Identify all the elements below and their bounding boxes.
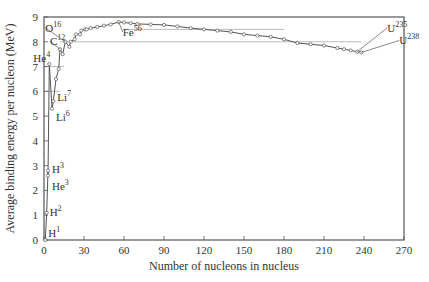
isotope-label: H1: [48, 225, 60, 239]
isotope-label: Li7: [57, 89, 71, 103]
data-point: [89, 27, 92, 30]
data-point: [349, 49, 352, 52]
data-point: [149, 23, 152, 26]
y-tick-label: 1: [33, 209, 39, 221]
data-point: [68, 45, 71, 48]
data-point: [80, 29, 83, 32]
data-point: [69, 40, 72, 43]
data-point: [57, 67, 60, 70]
reference-lines: [44, 29, 361, 91]
data-point: [46, 174, 49, 177]
data-point: [216, 29, 219, 32]
data-point: [189, 27, 192, 30]
data-point: [54, 77, 57, 80]
data-point: [85, 28, 88, 31]
x-tick-label: 60: [119, 244, 131, 256]
x-tick-label: 270: [396, 244, 413, 256]
data-point: [61, 53, 64, 56]
data-point: [322, 44, 325, 47]
y-tick-label: 0: [33, 234, 39, 246]
data-series: [44, 20, 363, 241]
isotope-label: He4: [33, 50, 50, 64]
data-point: [162, 23, 165, 26]
data-point: [242, 33, 245, 36]
y-tick-label: 8: [33, 36, 39, 48]
x-tick-label: 180: [276, 244, 293, 256]
y-tick-label: 4: [33, 135, 39, 147]
x-tick-label: 90: [159, 244, 171, 256]
binding-energy-chart: 03060901201501802102402700123456789 H1H2…: [0, 0, 429, 282]
data-point: [296, 41, 299, 44]
isotope-label: He3: [52, 178, 69, 192]
data-point: [269, 35, 272, 38]
data-point: [46, 169, 49, 172]
x-tick-label: 150: [236, 244, 253, 256]
isotope-label: Li6: [56, 109, 70, 123]
data-point: [74, 33, 77, 36]
y-tick-label: 2: [33, 184, 39, 196]
data-point: [342, 48, 345, 51]
data-point: [282, 38, 285, 41]
data-point: [78, 33, 81, 36]
data-point: [122, 21, 125, 24]
data-point: [96, 25, 99, 28]
x-tick-label: 0: [41, 244, 47, 256]
x-axis-label: Number of nucleons in nucleus: [149, 259, 299, 273]
data-point: [102, 24, 105, 27]
data-point: [309, 43, 312, 46]
isotope-label: H2: [50, 204, 62, 218]
data-point: [202, 28, 205, 31]
y-tick-label: 9: [33, 11, 39, 23]
data-point: [48, 62, 51, 65]
series-line: [45, 22, 361, 240]
y-tick-label: 3: [33, 160, 39, 172]
isotope-annotations: H1H2H3He3Li6Li7He4C12O16Fe56U235U238: [33, 20, 419, 239]
data-point: [73, 38, 76, 41]
isotope-label: U238: [399, 32, 419, 46]
data-point: [44, 238, 47, 241]
data-point: [176, 25, 179, 28]
x-tick-label: 240: [356, 244, 373, 256]
data-point: [336, 46, 339, 49]
y-tick-label: 6: [33, 85, 39, 97]
data-point: [52, 100, 55, 103]
axis-ticks: 03060901201501802102402700123456789: [33, 11, 413, 256]
isotope-label: H3: [52, 161, 64, 175]
x-tick-label: 30: [79, 244, 91, 256]
data-point: [45, 211, 48, 214]
isotope-label: Fe56: [123, 24, 142, 38]
chart-svg: 03060901201501802102402700123456789 H1H2…: [0, 0, 429, 282]
x-tick-label: 210: [316, 244, 333, 256]
isotope-label: O16: [45, 20, 61, 34]
data-point: [229, 30, 232, 33]
x-tick-label: 120: [196, 244, 213, 256]
y-axis-label: Average binding energy per nucleon (MeV): [3, 24, 17, 234]
data-point: [50, 107, 53, 110]
data-point: [256, 34, 259, 37]
y-tick-label: 5: [33, 110, 39, 122]
data-point: [109, 23, 112, 26]
data-point: [129, 22, 132, 25]
